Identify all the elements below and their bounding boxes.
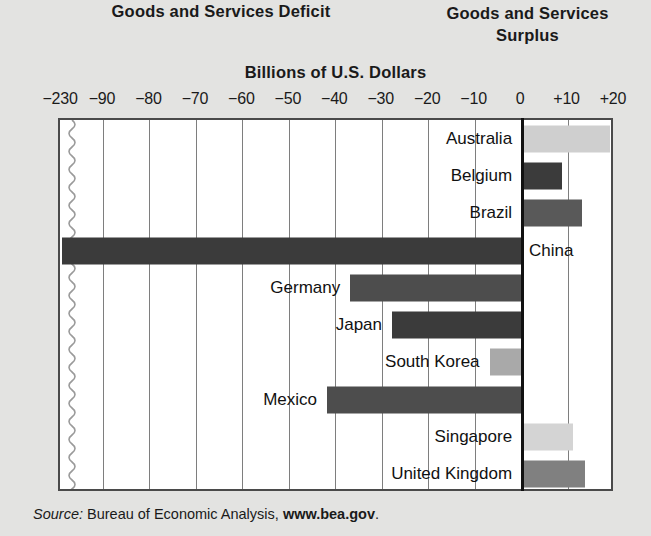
x-tick-minus20: −20 xyxy=(414,90,441,108)
category-label-mexico: Mexico xyxy=(263,390,317,410)
deficit-heading: Goods and Services Deficit xyxy=(56,2,386,21)
plot-area: AustraliaBelgiumBrazilChinaGermanyJapanS… xyxy=(58,118,613,491)
x-tick-10: +10 xyxy=(553,90,580,108)
category-label-japan: Japan xyxy=(336,315,382,335)
chart-row: Australia xyxy=(60,120,611,157)
x-axis-tick-labels: −230−90−80−70−60−50−40−30−20−100+10+20 xyxy=(0,90,651,112)
category-label-china: China xyxy=(529,241,573,261)
zero-axis-line xyxy=(521,118,524,491)
chart-row: Singapore xyxy=(60,418,611,455)
x-tick-minus10: −10 xyxy=(460,90,487,108)
bar-brazil xyxy=(522,200,582,227)
bar-australia xyxy=(522,125,610,152)
surplus-heading-line2: Surplus xyxy=(420,24,635,46)
chart-row: Belgium xyxy=(60,157,611,194)
x-tick-20: +20 xyxy=(600,90,627,108)
chart-row: United Kingdom xyxy=(60,456,611,493)
chart-row: Germany xyxy=(60,269,611,306)
x-tick-minus230: −230 xyxy=(42,90,77,108)
source-label: Source: xyxy=(33,506,83,522)
surplus-heading: Goods and Services Surplus xyxy=(420,2,635,46)
units-heading: Billions of U.S. Dollars xyxy=(58,63,613,82)
bar-japan xyxy=(392,312,522,339)
chart-row: Brazil xyxy=(60,195,611,232)
source-agency: Bureau of Economic Analysis, xyxy=(87,506,279,522)
x-tick-minus70: −70 xyxy=(182,90,209,108)
x-tick-minus30: −30 xyxy=(367,90,394,108)
source-note: Source: Bureau of Economic Analysis, www… xyxy=(33,506,379,522)
category-label-united-kingdom: United Kingdom xyxy=(391,464,512,484)
surplus-heading-line1: Goods and Services xyxy=(420,2,635,24)
bar-south-korea xyxy=(490,349,523,376)
x-tick-minus90: −90 xyxy=(89,90,116,108)
category-label-australia: Australia xyxy=(446,129,512,149)
category-label-germany: Germany xyxy=(270,278,340,298)
x-tick-minus60: −60 xyxy=(228,90,255,108)
category-label-singapore: Singapore xyxy=(435,427,513,447)
bar-china xyxy=(62,237,522,264)
bar-singapore xyxy=(522,424,573,451)
source-website: www.bea.gov xyxy=(283,506,375,522)
category-label-belgium: Belgium xyxy=(451,166,512,186)
chart-row: Japan xyxy=(60,307,611,344)
chart-figure: Goods and Services Deficit Goods and Ser… xyxy=(0,0,651,536)
category-label-south-korea: South Korea xyxy=(385,352,480,372)
bar-belgium xyxy=(522,162,561,189)
x-tick-minus80: −80 xyxy=(135,90,162,108)
source-period: . xyxy=(375,506,379,522)
bar-germany xyxy=(350,274,522,301)
x-tick-0: 0 xyxy=(516,90,525,108)
chart-row: South Korea xyxy=(60,344,611,381)
chart-row: China xyxy=(60,232,611,269)
x-tick-minus50: −50 xyxy=(275,90,302,108)
x-tick-minus40: −40 xyxy=(321,90,348,108)
chart-row: Mexico xyxy=(60,381,611,418)
category-label-brazil: Brazil xyxy=(470,203,513,223)
bar-mexico xyxy=(327,386,522,413)
bar-united-kingdom xyxy=(522,461,585,488)
